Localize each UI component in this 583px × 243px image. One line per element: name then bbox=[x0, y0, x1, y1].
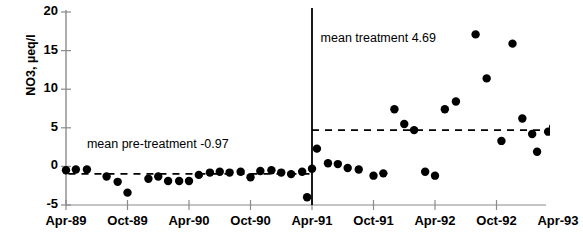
x-tick-label: Oct-92 bbox=[462, 213, 532, 228]
x-tick-label: Oct-90 bbox=[216, 213, 286, 228]
y-tick-label: 15 bbox=[24, 42, 58, 57]
data-points bbox=[62, 30, 550, 201]
x-tick-label: Oct-89 bbox=[93, 213, 163, 228]
x-tick-label: Apr-91 bbox=[277, 213, 347, 228]
y-tick-label: 10 bbox=[24, 80, 58, 95]
x-tick-label: Apr-90 bbox=[154, 213, 224, 228]
x-tick-label: Oct-91 bbox=[339, 213, 409, 228]
x-tick-label: Apr-93 bbox=[523, 213, 583, 228]
y-tick-label: -5 bbox=[24, 196, 58, 211]
axes bbox=[61, 10, 550, 210]
treatment-mean-annotation: mean treatment 4.69 bbox=[321, 31, 436, 45]
pre-treatment-mean-annotation: mean pre-treatment -0.97 bbox=[87, 137, 229, 151]
x-tick-label: Apr-89 bbox=[31, 213, 101, 228]
x-tick-label: Apr-92 bbox=[400, 213, 470, 228]
y-tick-label: 20 bbox=[24, 3, 58, 18]
y-axis-label: NO3, µeq/l bbox=[24, 10, 38, 120]
y-tick-label: 0 bbox=[24, 157, 58, 172]
y-tick-label: 5 bbox=[24, 119, 58, 134]
